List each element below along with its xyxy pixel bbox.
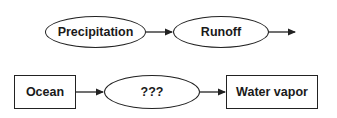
node-label: Ocean [26, 85, 64, 99]
node-water-vapor: Water vapor [226, 75, 318, 109]
node-ocean: Ocean [14, 75, 76, 109]
node-label: Runoff [201, 25, 241, 39]
node-label: Water vapor [236, 85, 308, 99]
node-unknown: ??? [104, 75, 200, 109]
water-cycle-diagram: Precipitation Runoff Ocean ??? Water vap… [0, 0, 337, 118]
node-precipitation: Precipitation [45, 16, 146, 48]
node-runoff: Runoff [173, 16, 269, 48]
node-label: ??? [141, 85, 164, 99]
node-label: Precipitation [58, 25, 134, 39]
